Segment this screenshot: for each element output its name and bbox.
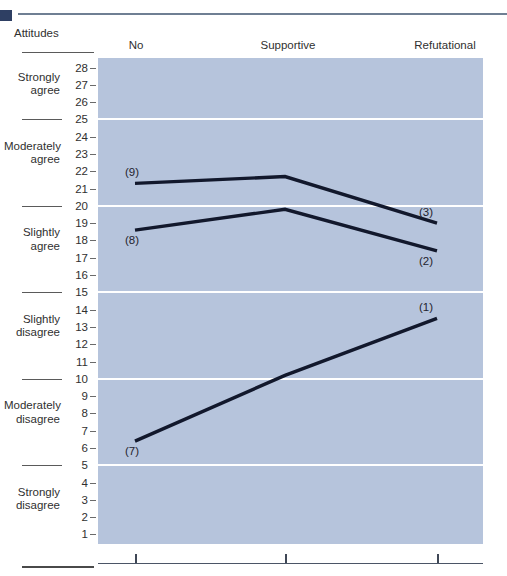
- data-point-label-7: (7): [125, 445, 139, 457]
- y-axis-category-label-1-line1: Moderately: [4, 140, 61, 152]
- y-axis-tick-mark-27: [90, 85, 96, 86]
- data-point-label-9: (9): [125, 166, 139, 178]
- y-axis-tick-label-22: 22: [62, 165, 88, 177]
- y-axis-tick-mark-7: [90, 431, 96, 432]
- data-point-label-3: (3): [419, 206, 433, 218]
- y-axis-tick-label-20: 20: [62, 200, 88, 212]
- bottom-divider-rule: [22, 566, 94, 568]
- y-axis-tick-label-5: 5: [62, 459, 88, 471]
- y-axis-tick-mark-13: [90, 327, 96, 328]
- y-axis-tick-label-13: 13: [62, 321, 88, 333]
- header-column-no-inoculation-line1: No: [129, 39, 144, 51]
- y-axis-category-label-4-line1: Moderately: [4, 399, 61, 411]
- y-axis-tick-label-3: 3: [62, 494, 88, 506]
- y-axis-category-label-3: Slightlydisagree: [4, 313, 60, 340]
- y-axis-tick-label-11: 11: [62, 356, 88, 368]
- y-axis-category-label-0-line1: Strongly: [18, 71, 60, 83]
- y-axis-tick-label-18: 18: [62, 234, 88, 246]
- y-axis-tick-label-4: 4: [62, 477, 88, 489]
- y-axis-tick-mark-23: [90, 154, 96, 155]
- y-axis-category-label-2-line2: agree: [31, 240, 60, 252]
- y-axis-tick-label-21: 21: [62, 183, 88, 195]
- y-axis-category-label-3-line2: disagree: [16, 326, 60, 338]
- y-axis-tick-label-15: 15: [62, 286, 88, 298]
- figure-container: Attitudes No inoculation Supportive inoc…: [0, 0, 507, 576]
- y-axis-tick-mark-22: [90, 171, 96, 172]
- series-line-1: [135, 209, 437, 251]
- data-point-label-1: (1): [419, 301, 433, 313]
- y-axis-tick-label-7: 7: [62, 425, 88, 437]
- y-axis-category-label-4-line2: disagree: [16, 413, 60, 425]
- category-divider-rule-15: [22, 292, 62, 293]
- y-axis-tick-label-25: 25: [62, 113, 88, 125]
- y-axis-category-label-0-line2: agree: [31, 84, 60, 96]
- y-axis-tick-mark-19: [90, 223, 96, 224]
- y-axis-category-label-5-line1: Strongly: [18, 486, 60, 498]
- y-axis-category-label-4: Moderatelydisagree: [4, 399, 60, 426]
- y-axis-category-label-2: Slightlyagree: [4, 226, 60, 253]
- y-axis-tick-label-8: 8: [62, 407, 88, 419]
- y-axis-category-label-5: Stronglydisagree: [4, 486, 60, 513]
- y-axis-tick-mark-9: [90, 396, 96, 397]
- data-point-label-8: (8): [125, 234, 139, 246]
- y-axis-tick-label-24: 24: [62, 131, 88, 143]
- category-divider-rule-25: [22, 119, 62, 120]
- y-axis-category-label-1-line2: agree: [31, 153, 60, 165]
- x-axis-tick-0: [135, 554, 137, 563]
- corner-marker-icon: [0, 10, 12, 21]
- y-axis-tick-mark-3: [90, 500, 96, 501]
- y-axis-tick-mark-17: [90, 258, 96, 259]
- header-attitudes-label: Attitudes: [14, 26, 94, 40]
- category-divider-rule-10: [22, 379, 62, 380]
- y-axis-tick-mark-11: [90, 362, 96, 363]
- series-line-2: [135, 318, 437, 441]
- header-column-supportive-inoculation-line1: Supportive: [261, 39, 316, 51]
- top-divider-rule: [18, 13, 507, 15]
- y-axis-tick-mark-21: [90, 189, 96, 190]
- header-column-refutational-inoculation-line1: Refutational: [414, 39, 475, 51]
- y-axis-tick-mark-1: [90, 534, 96, 535]
- y-axis-tick-mark-14: [90, 310, 96, 311]
- y-axis-tick-mark-24: [90, 137, 96, 138]
- y-axis-tick-label-19: 19: [62, 217, 88, 229]
- y-axis-tick-label-16: 16: [62, 269, 88, 281]
- category-divider-rule-top: [22, 52, 94, 53]
- y-axis-tick-mark-26: [90, 102, 96, 103]
- y-axis-category-label-5-line2: disagree: [16, 499, 60, 511]
- y-axis-tick-mark-18: [90, 240, 96, 241]
- y-axis-tick-label-23: 23: [62, 148, 88, 160]
- series-line-0: [135, 177, 437, 224]
- y-axis-tick-mark-2: [90, 517, 96, 518]
- y-axis-tick-label-10: 10: [62, 373, 88, 385]
- y-axis-category-label-3-line1: Slightly: [23, 313, 60, 325]
- y-axis-tick-mark-28: [90, 68, 96, 69]
- y-axis-tick-mark-8: [90, 413, 96, 414]
- y-axis-category-label-1: Moderatelyagree: [4, 140, 60, 167]
- y-axis-tick-label-2: 2: [62, 511, 88, 523]
- y-axis-tick-mark-6: [90, 448, 96, 449]
- y-axis-category-label-2-line1: Slightly: [23, 226, 60, 238]
- y-axis-tick-label-26: 26: [62, 96, 88, 108]
- data-point-label-2: (2): [419, 255, 433, 267]
- category-divider-rule-5: [22, 465, 62, 466]
- x-axis-line: [98, 563, 483, 564]
- y-axis-tick-label-6: 6: [62, 442, 88, 454]
- y-axis-tick-label-9: 9: [62, 390, 88, 402]
- y-axis-category-label-0: Stronglyagree: [4, 71, 60, 98]
- y-axis-tick-label-27: 27: [62, 79, 88, 91]
- y-axis-tick-label-17: 17: [62, 252, 88, 264]
- y-axis-tick-mark-12: [90, 344, 96, 345]
- plot-area: (9)(8)(7)(3)(2)(1): [98, 58, 483, 544]
- x-axis-tick-2: [437, 554, 439, 563]
- x-axis-tick-1: [285, 554, 287, 563]
- y-axis-tick-label-14: 14: [62, 304, 88, 316]
- y-axis-tick-mark-4: [90, 483, 96, 484]
- category-divider-rule-20: [22, 206, 62, 207]
- y-axis-tick-label-28: 28: [62, 62, 88, 74]
- y-axis-tick-label-1: 1: [62, 528, 88, 540]
- y-axis-tick-mark-16: [90, 275, 96, 276]
- y-axis-tick-label-12: 12: [62, 338, 88, 350]
